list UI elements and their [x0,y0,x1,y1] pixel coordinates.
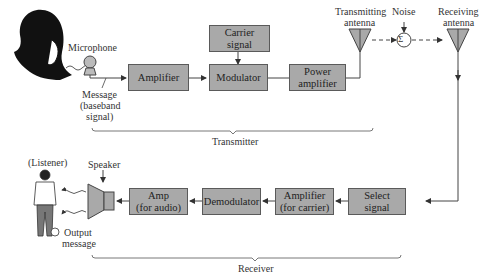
speaker-icon [88,184,114,219]
demodulator-block: Demodulator [202,188,261,215]
amp-audio-label-1: Amp [148,190,169,202]
sound-wave-icon [62,190,86,194]
speaker-label: Speaker [88,159,120,170]
transmitting-antenna-icon [349,29,371,52]
receiving-antenna-icon [447,29,469,52]
power-amp-label-2: amplifier [298,78,336,90]
message-label-2: (baseband [80,100,121,111]
modulator-block: Modulator [209,64,268,91]
message-label-3: signal) [86,111,113,122]
tx-antenna-label-2: antenna [344,17,375,28]
select-label-2: signal [364,202,389,214]
speaker-person-icon [14,10,72,80]
listener-label: (Listener) [28,157,67,168]
amplifier-carrier-block: Amplifier(for carrier) [275,188,334,215]
rx-antenna-label-1: Receiving [438,6,479,17]
power-amp-label-1: Power [304,66,331,78]
select-label-1: Select [364,190,390,202]
amplifier-label: Amplifier [138,72,179,84]
amplifier-block: Amplifier [128,64,189,91]
amp-carrier-label-2: (for carrier) [280,202,329,214]
microphone-label: Microphone [68,42,117,53]
transmitter-label: Transmitter [212,136,258,147]
amp-audio-block: Amp(for audio) [129,188,188,215]
receiver-label: Receiver [238,263,274,274]
amp-carrier-label-1: Amplifier [284,190,325,202]
rx-antenna-label-2: antenna [443,17,474,28]
noise-label: Noise [392,6,415,17]
receiver-brace [92,255,401,261]
carrier-signal-block: Carriersignal [209,25,270,52]
select-signal-block: Selectsignal [348,188,406,215]
demodulator-label: Demodulator [204,196,259,208]
output-label-2: message [62,238,96,249]
sum-symbol: Σ [398,34,403,45]
listener-icon [34,170,59,236]
carrier-label-1: Carrier [225,27,255,39]
message-label-1: Message [82,89,117,100]
modulator-label: Modulator [216,72,260,84]
amp-audio-label-2: (for audio) [136,202,181,214]
tx-antenna-label-1: Transmitting [335,6,386,17]
microphone-icon [84,56,96,75]
carrier-label-2: signal [227,39,252,51]
power-amplifier-block: Poweramplifier [289,64,346,91]
transmitter-brace [92,128,373,134]
output-label-1: Output [64,227,92,238]
sound-wave-icon [62,211,86,215]
